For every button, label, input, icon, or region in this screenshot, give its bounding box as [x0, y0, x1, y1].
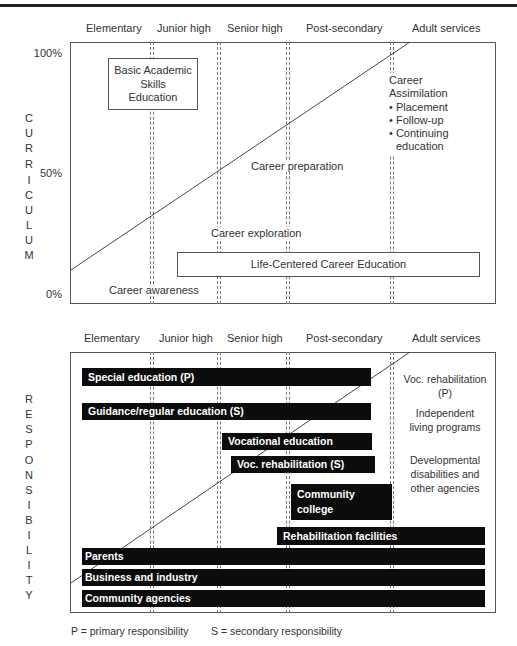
- bar-community-college: Community college: [291, 484, 392, 520]
- stage-header-post-secondary: Post-secondary: [306, 22, 382, 34]
- career-preparation-label: Career preparation: [249, 160, 345, 172]
- stage-header-senior-high: Senior high: [227, 332, 283, 344]
- stage-header-adult-services: Adult services: [412, 332, 480, 344]
- bar-guidance-regular-education: Guidance/regular education (S): [82, 403, 371, 420]
- developmental-disabilities-text: Developmental disabilities and other age…: [400, 453, 490, 495]
- bar-special-education: Special education (P): [82, 368, 371, 386]
- voc-rehabilitation-primary-text: Voc. rehabilitation (P): [400, 372, 490, 400]
- bar-vocational-education: Vocational education: [222, 433, 372, 450]
- stage-header-post-secondary: Post-secondary: [306, 332, 382, 344]
- stage-header-junior-high: Junior high: [159, 332, 213, 344]
- career-exploration-label: Career exploration: [209, 227, 304, 239]
- independent-living-programs-text: Independent living programs: [400, 406, 490, 434]
- legend-secondary: S = secondary responsibility: [211, 625, 342, 637]
- legend-primary: P = primary responsibility: [71, 625, 188, 637]
- career-awareness-label: Career awareness: [107, 284, 201, 296]
- y-tick-100: 100%: [22, 47, 62, 59]
- top-rule: [0, 4, 517, 7]
- stage-header-senior-high: Senior high: [227, 22, 283, 34]
- bar-parents: Parents: [82, 548, 485, 565]
- y-tick-0: 0%: [22, 288, 62, 300]
- stage-header-junior-high: Junior high: [157, 22, 211, 34]
- stage-header-adult-services: Adult services: [412, 22, 480, 34]
- life-centered-career-education-box: Life-Centered Career Education: [177, 252, 480, 277]
- bar-rehabilitation-facilities: Rehabilitation facilities: [277, 527, 485, 545]
- bar-business-and-industry: Business and industry: [82, 569, 485, 586]
- stage-header-elementary: Elementary: [86, 22, 142, 34]
- bar-community-agencies: Community agencies: [82, 590, 485, 607]
- basic-academic-skills-box: Basic Academic Skills Education: [108, 58, 198, 110]
- stage-header-elementary: Elementary: [84, 332, 140, 344]
- career-assimilation-text: Career Assimilation • Placement • Follow…: [387, 73, 451, 155]
- bar-voc-rehabilitation-s: Voc. rehabilitation (S): [231, 456, 375, 473]
